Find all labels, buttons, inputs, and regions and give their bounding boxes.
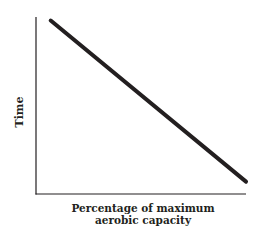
data-line	[51, 21, 246, 182]
x-axis-label-line2: aerobic capacity	[40, 214, 246, 226]
chart-area	[0, 0, 262, 228]
y-axis-label: Time	[12, 94, 28, 130]
x-axis-label: Percentage of maximum aerobic capacity	[40, 202, 246, 226]
x-axis-label-line1: Percentage of maximum	[40, 202, 246, 214]
